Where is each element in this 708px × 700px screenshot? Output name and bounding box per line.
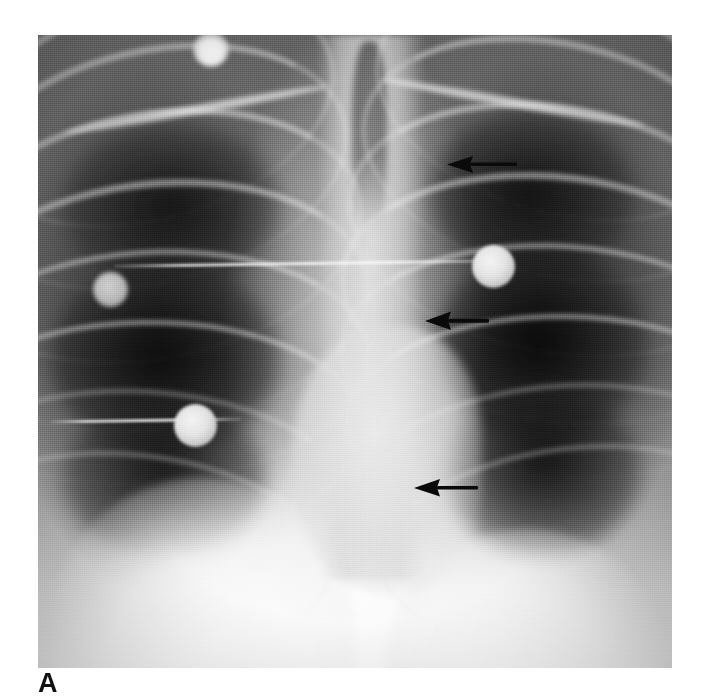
figure-root: A <box>0 0 708 700</box>
chest-xray-image <box>38 35 672 668</box>
arrow-lower <box>410 475 482 501</box>
panel-letter: A <box>38 670 58 697</box>
arrow-middle <box>421 308 493 334</box>
annotation-arrow-layer <box>38 35 672 668</box>
arrow-upper <box>443 152 523 178</box>
